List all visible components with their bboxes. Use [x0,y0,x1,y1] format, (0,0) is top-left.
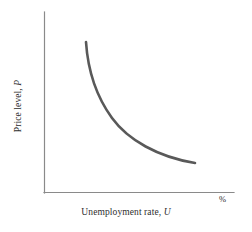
chart-canvas [0,0,252,232]
phillips-curve-line [86,42,195,163]
y-axis-label-symbol: P [13,80,23,86]
x-axis-label-symbol: U [164,207,171,217]
percent-unit-label: % [219,194,226,204]
x-axis-label-text: Unemployment rate, [81,207,161,217]
phillips-curve-figure: Price level, P Unemployment rate, U % [0,0,252,232]
y-axis-label: Price level, P [10,60,26,152]
x-axis-label: Unemployment rate, U [0,207,252,217]
y-axis-label-text: Price level, [13,88,23,132]
